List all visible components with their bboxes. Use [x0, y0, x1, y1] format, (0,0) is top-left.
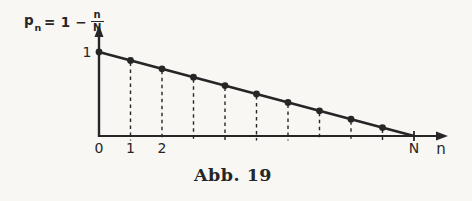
data-point [285, 99, 292, 106]
y-tick-label: 1 [83, 44, 92, 60]
y-axis-arrowhead [95, 25, 104, 37]
x-tick-label: 0 [95, 140, 104, 156]
data-point [379, 124, 386, 131]
figure-page: pn = 1 − n N 012N1n Abb. 19 [0, 0, 472, 201]
data-point [253, 91, 260, 98]
data-point [348, 116, 355, 123]
data-point [316, 107, 323, 114]
figure-caption: Abb. 19 [168, 165, 298, 185]
x-axis-label: n [436, 140, 446, 158]
data-point [127, 57, 134, 64]
data-point [96, 49, 103, 56]
x-tick-label: N [409, 140, 419, 156]
x-tick-label: 2 [158, 140, 167, 156]
data-point [222, 82, 229, 89]
x-tick-label: 1 [126, 140, 135, 156]
data-point [159, 65, 166, 72]
data-point [190, 74, 197, 81]
